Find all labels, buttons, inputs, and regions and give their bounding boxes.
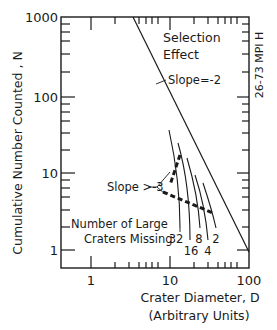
annotation-selection: Selection	[163, 30, 221, 45]
annotation-slope-3: Slope >-3	[107, 180, 164, 194]
y-label-1000: 1000	[25, 10, 58, 25]
annotation-effect: Effect	[163, 47, 199, 62]
x-label-100: 100	[237, 273, 262, 288]
label-32: 32	[169, 232, 184, 246]
annotation-slope-2: Slope=-2	[168, 73, 221, 87]
missing-crater-curves	[169, 130, 216, 240]
annotation-missing-1: Number of Large	[71, 217, 168, 231]
curve-2	[203, 183, 216, 228]
x-label-10: 10	[162, 273, 179, 288]
label-2: 2	[212, 232, 219, 246]
label-4: 4	[204, 244, 211, 258]
label-16: 16	[184, 244, 199, 258]
x-axis-title: Crater Diameter, D	[140, 290, 259, 305]
label-8: 8	[195, 232, 202, 246]
crater-chart: 1000 100 10 1 1 10 100 Cumulative Number…	[0, 0, 277, 330]
figure-id-label: 26-73 MPI H	[253, 32, 266, 99]
annotation-missing-2: Craters Missing	[84, 232, 173, 246]
y-label-1: 1	[50, 243, 58, 258]
y-axis-title: Cumulative Number Counted , N	[10, 51, 25, 255]
y-ticks-right	[237, 24, 249, 250]
x-axis-subtitle: (Arbitrary Units)	[148, 308, 249, 323]
y-label-10: 10	[41, 166, 58, 181]
x-ticks-top	[91, 17, 237, 30]
y-label-100: 100	[33, 90, 58, 105]
x-ticks-bottom	[91, 256, 237, 268]
x-label-1: 1	[87, 273, 95, 288]
